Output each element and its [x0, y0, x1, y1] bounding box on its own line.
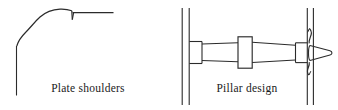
- pillar-shaft-right-segment: [252, 42, 295, 62]
- left-collar-icon: [189, 42, 202, 64]
- right-collar-icon: [296, 43, 308, 63]
- pillar-shaft-left-segment: [202, 43, 238, 62]
- caption-pillar-design: Pillar design: [178, 83, 316, 95]
- ogee-curve-icon: [17, 9, 72, 46]
- thread-nut-icon: [309, 46, 332, 61]
- middle-collar-icon: [238, 37, 252, 68]
- figure-container: Plate shoulders Pillar design: [0, 0, 338, 110]
- caption-plate-shoulders: Plate shoulders: [0, 83, 176, 95]
- thread-spiral-line: [307, 29, 311, 76]
